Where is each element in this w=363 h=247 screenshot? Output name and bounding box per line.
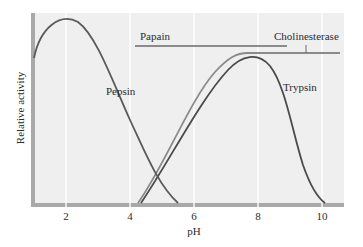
x-tick-8: 8 <box>255 210 261 222</box>
x-tick-labels: 2 4 6 8 10 <box>63 210 328 222</box>
papain-label: Papain <box>140 30 170 42</box>
cholinesterase-label: Cholinesterase <box>274 30 339 42</box>
pepsin-label: Pepsin <box>106 85 136 97</box>
x-axis <box>31 203 344 207</box>
y-axis-title: Relative activity <box>14 71 26 144</box>
x-tick-10: 10 <box>317 210 329 222</box>
trypsin-label: Trypsin <box>283 81 317 93</box>
x-tick-2: 2 <box>63 210 69 222</box>
x-tick-4: 4 <box>127 210 133 222</box>
y-axis <box>31 13 35 207</box>
x-axis-title: pH <box>187 225 201 237</box>
x-tick-6: 6 <box>191 210 197 222</box>
enzyme-ph-activity-chart: Pepsin Trypsin Papain Cholinesterase 2 4… <box>0 0 363 247</box>
